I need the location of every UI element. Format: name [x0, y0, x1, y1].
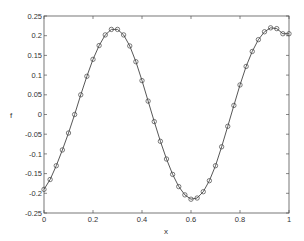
x-tick-label: 0.6 — [186, 215, 196, 224]
y-tick-label: -0.1 — [29, 150, 42, 159]
y-tick-labels: 0.250.20.150.10.050-0.05-0.1-0.15-0.2-0.… — [25, 12, 42, 218]
y-tick-label: 0 — [38, 110, 42, 119]
y-tick-label: 0.05 — [27, 90, 42, 99]
y-tick-label: 0.15 — [27, 51, 42, 60]
y-tick-label: -0.2 — [29, 189, 42, 198]
x-tick-label: 0.8 — [235, 215, 245, 224]
y-tick-label: 0.1 — [32, 71, 42, 80]
x-tick-label: 0.4 — [137, 215, 147, 224]
y-tick-label: -0.25 — [25, 209, 42, 218]
y-tick-label: -0.15 — [25, 169, 42, 178]
line-chart: 0.250.20.150.10.050-0.05-0.1-0.15-0.2-0.… — [0, 0, 304, 241]
x-axis-label: x — [164, 227, 168, 236]
y-axis-label: f — [10, 111, 13, 120]
x-tick-labels: 00.20.40.60.81 — [42, 215, 291, 224]
y-tick-label: -0.05 — [25, 130, 42, 139]
x-tick-label: 1 — [287, 215, 291, 224]
x-tick-label: 0.2 — [88, 215, 98, 224]
plot-area — [44, 16, 289, 213]
y-tick-label: 0.2 — [32, 31, 42, 40]
y-tick-label: 0.25 — [27, 12, 42, 21]
x-tick-label: 0 — [42, 215, 46, 224]
